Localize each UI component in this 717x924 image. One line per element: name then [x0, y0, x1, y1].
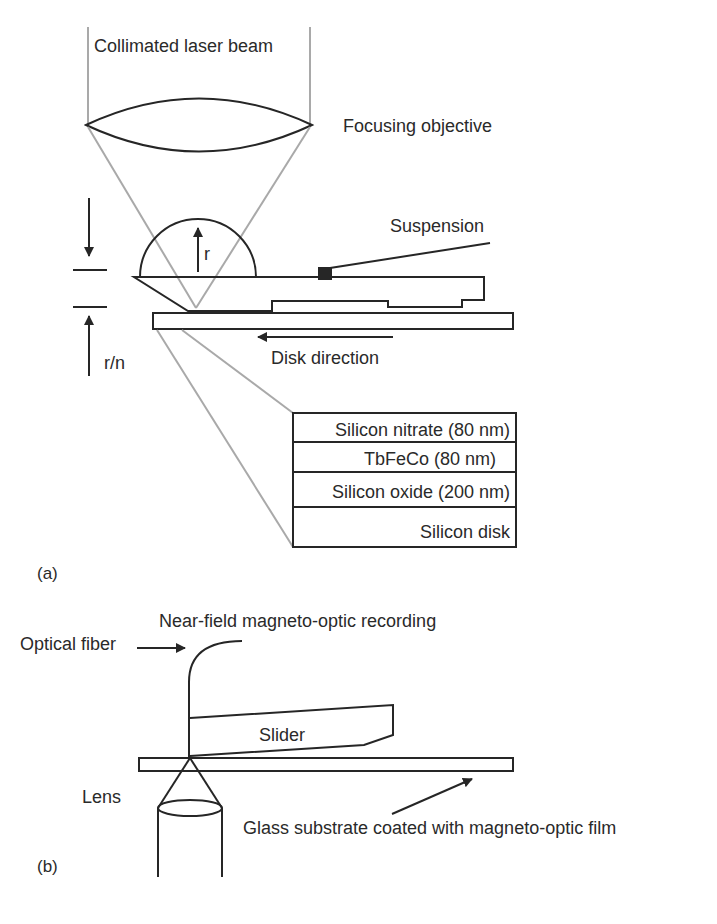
optical-fiber: [189, 641, 242, 757]
converging-beam-right: [196, 127, 310, 308]
figure-a: Collimated laser beam Focusing objective…: [37, 27, 516, 583]
focusing-objective-lens: [86, 99, 312, 152]
figure-b-title: Near-field magneto-optic recording: [159, 611, 436, 631]
disk: [153, 313, 513, 329]
suspension-mount: [318, 267, 332, 280]
radius-label: r: [204, 244, 210, 264]
slider-label: Slider: [259, 725, 305, 745]
beam-label: Collimated laser beam: [94, 36, 273, 56]
converging-beam-left: [88, 127, 196, 308]
layer-silicon-oxide: Silicon oxide (200 nm): [332, 482, 510, 502]
lens-top: [158, 800, 222, 816]
suspension-label: Suspension: [390, 216, 484, 236]
layer-tbfeco: TbFeCo (80 nm): [364, 449, 496, 469]
fiber-label: Optical fiber: [20, 634, 116, 654]
substrate-label: Glass substrate coated with magneto-opti…: [243, 818, 616, 838]
figure-b: Near-field magneto-optic recording Optic…: [20, 611, 616, 877]
suspension-arm: [330, 243, 490, 268]
layer-silicon-disk: Silicon disk: [420, 522, 511, 542]
lens-label: Lens: [82, 787, 121, 807]
disk-direction-label: Disk direction: [271, 348, 379, 368]
layer-stack: Silicon nitrate (80 nm) TbFeCo (80 nm) S…: [293, 413, 516, 547]
panel-label-b: (b): [37, 857, 58, 876]
magneto-optic-recording-diagram: Collimated laser beam Focusing objective…: [0, 0, 717, 924]
panel-label-a: (a): [37, 564, 58, 583]
gap-label: r/n: [104, 353, 125, 373]
substrate-arrow-icon: [392, 779, 472, 814]
callout-line-right: [182, 330, 293, 413]
layer-silicon-nitrate: Silicon nitrate (80 nm): [335, 420, 510, 440]
objective-label: Focusing objective: [343, 116, 492, 136]
